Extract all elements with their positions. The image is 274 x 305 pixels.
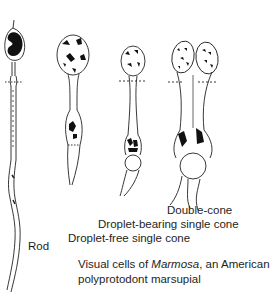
rod-cell — [5, 20, 25, 292]
caption-line-2: polyprotodont marsupial — [78, 272, 270, 287]
label-double-cone: Double-cone — [167, 204, 232, 217]
caption-suffix: , an American — [199, 258, 269, 270]
caption-line-1: Visual cells of Marmosa, an American — [78, 257, 270, 272]
droplet-free-cone-cell — [57, 35, 89, 185]
caption-genus: Marmosa — [151, 258, 199, 270]
droplet-bearing-cone-cell — [119, 46, 147, 196]
figure-caption: Visual cells of Marmosa, an American pol… — [78, 257, 270, 287]
caption-prefix: Visual cells of — [78, 258, 151, 270]
label-droplet-free-cone: Droplet-free single cone — [68, 232, 190, 245]
double-cone-cell — [168, 39, 220, 210]
rod-nucleus — [8, 32, 23, 56]
label-droplet-bearing-cone: Droplet-bearing single cone — [98, 218, 239, 231]
label-rod: Rod — [28, 240, 49, 253]
